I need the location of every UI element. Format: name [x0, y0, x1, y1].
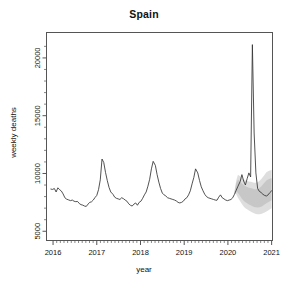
x-tick-label: 2016	[45, 248, 62, 257]
y-tick-label: 20000	[33, 47, 42, 68]
y-axis-label: weekly deaths	[9, 88, 18, 178]
x-tick-label: 2018	[132, 248, 149, 257]
x-tick-label: 2021	[263, 248, 280, 257]
y-axis-tick-labels: 5000100001500020000	[33, 47, 42, 239]
chart-figure: Spain 5000100001500020000 20162017201820…	[0, 0, 288, 289]
prediction-band-group	[234, 170, 271, 214]
plot-canvas: 5000100001500020000 20162017201820192020…	[0, 0, 288, 289]
x-tick-label: 2017	[88, 248, 105, 257]
x-tick-label: 2019	[176, 248, 193, 257]
x-tick-label: 2020	[220, 248, 237, 257]
y-axis-ticks	[43, 58, 47, 231]
y-tick-label: 10000	[33, 163, 42, 184]
plot-frame	[47, 33, 273, 241]
x-axis-label: year	[0, 265, 288, 274]
axes-group: 5000100001500020000 20162017201820192020…	[33, 33, 279, 257]
y-tick-label: 5000	[33, 223, 42, 240]
x-axis-tick-labels: 201620172018201920202021	[45, 248, 280, 257]
y-tick-label: 15000	[33, 105, 42, 126]
